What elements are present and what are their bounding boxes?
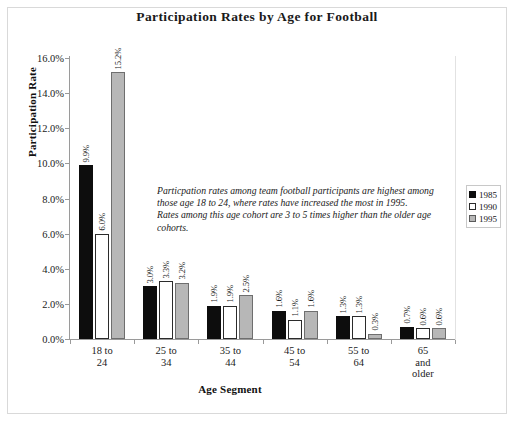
x-category-label: 55 to64 <box>327 345 391 368</box>
y-tick-mark <box>65 58 69 59</box>
legend-swatch-icon <box>469 191 476 198</box>
x-category-label: 25 to34 <box>134 345 198 368</box>
x-category-label-line: 34 <box>134 357 198 369</box>
x-axis-title: Age Segment <box>0 383 460 395</box>
bar-value-label: 0.3% <box>370 313 379 331</box>
x-category-label: 65andolder <box>391 345 455 380</box>
x-category-label-line: 24 <box>70 357 134 369</box>
bar-value-label: 2.5% <box>242 274 251 292</box>
y-tick-label: 4.0% <box>18 263 64 274</box>
annotation-line: those age 18 to 24, where rates have inc… <box>157 197 457 209</box>
annotation-line: Particpation rates among team football p… <box>157 185 457 197</box>
bar-1995-1[interactable] <box>175 283 189 339</box>
x-tick-mark <box>455 340 456 344</box>
x-category-label: 18 to24 <box>70 345 134 368</box>
x-category-label-line: 35 to <box>198 345 262 357</box>
bar-value-label: 6.0% <box>98 213 107 231</box>
chart-title: Participation Rates by Age for Football <box>0 9 514 25</box>
y-tick-mark <box>65 163 69 164</box>
bar-value-label: 1.3% <box>354 295 363 313</box>
bar-value-label: 1.3% <box>338 295 347 313</box>
bar-1985-3[interactable] <box>272 311 286 339</box>
bar-value-label: 1.6% <box>306 290 315 308</box>
y-tick-label: 12.0% <box>18 123 64 134</box>
legend-item-1990[interactable]: 1990 <box>469 201 497 212</box>
bar-1990-0[interactable] <box>95 234 109 339</box>
x-category-label-line: 25 to <box>134 345 198 357</box>
bar-1990-3[interactable] <box>288 320 302 339</box>
bar-value-label: 0.6% <box>418 308 427 326</box>
y-tick-label: 14.0% <box>18 88 64 99</box>
annotation-line: cohorts. <box>157 222 457 234</box>
bar-1995-3[interactable] <box>304 311 318 339</box>
chart-container: Participation Rates by Age for Football … <box>0 0 514 421</box>
y-tick-label: 8.0% <box>18 193 64 204</box>
bar-value-label: 3.2% <box>178 262 187 280</box>
legend-label: 1995 <box>479 214 497 224</box>
bar-1990-2[interactable] <box>223 306 237 339</box>
bar-value-label: 0.6% <box>434 308 443 326</box>
legend-item-1995[interactable]: 1995 <box>469 213 497 224</box>
y-tick-label: 10.0% <box>18 158 64 169</box>
x-category-label-line: older <box>391 368 455 380</box>
y-tick-mark <box>65 339 69 340</box>
y-tick-mark <box>65 234 69 235</box>
legend-item-1985[interactable]: 1985 <box>469 189 497 200</box>
bar-value-label: 1.1% <box>290 299 299 317</box>
x-category-label-line: 54 <box>263 357 327 369</box>
x-tick-mark <box>391 340 392 344</box>
y-tick-mark <box>65 93 69 94</box>
y-tick-label: 6.0% <box>18 228 64 239</box>
bar-1985-1[interactable] <box>143 286 157 339</box>
legend-label: 1985 <box>479 190 497 200</box>
x-tick-mark <box>134 340 135 344</box>
bar-1985-2[interactable] <box>207 306 221 339</box>
bar-1985-5[interactable] <box>400 327 414 339</box>
bar-value-label: 15.2% <box>114 47 123 69</box>
bar-1990-5[interactable] <box>416 328 430 339</box>
x-tick-mark <box>327 340 328 344</box>
x-category-label-line: 55 to <box>327 345 391 357</box>
chart-annotation-text: Particpation rates among team football p… <box>157 185 457 237</box>
annotation-line: Rates among this age cohort are 3 to 5 t… <box>157 209 457 221</box>
y-tick-label: 0.0% <box>18 334 64 345</box>
legend-swatch-icon <box>469 215 476 222</box>
bar-1995-4[interactable] <box>368 334 382 339</box>
x-category-label: 35 to44 <box>198 345 262 368</box>
bar-1990-1[interactable] <box>159 281 173 339</box>
x-category-label-line: 44 <box>198 357 262 369</box>
bar-1995-5[interactable] <box>432 328 446 339</box>
x-category-label-line: and <box>391 357 455 369</box>
x-tick-mark <box>198 340 199 344</box>
y-tick-label: 16.0% <box>18 53 64 64</box>
chart-legend: 198519901995 <box>466 185 501 228</box>
bar-value-label: 3.3% <box>162 260 171 278</box>
bar-value-label: 3.0% <box>146 266 155 284</box>
bar-group: 9.9%6.0%15.2% <box>70 58 134 339</box>
x-category-label-line: 64 <box>327 357 391 369</box>
legend-label: 1990 <box>479 202 497 212</box>
y-tick-mark <box>65 269 69 270</box>
bar-1985-4[interactable] <box>336 316 350 339</box>
x-category-label-line: 18 to <box>70 345 134 357</box>
y-tick-label: 2.0% <box>18 298 64 309</box>
bar-value-label: 1.9% <box>210 285 219 303</box>
x-category-label-line: 45 to <box>263 345 327 357</box>
y-tick-mark <box>65 128 69 129</box>
bar-1995-0[interactable] <box>111 72 125 339</box>
bar-value-label: 0.7% <box>402 306 411 324</box>
bar-1995-2[interactable] <box>239 295 253 339</box>
y-tick-mark <box>65 304 69 305</box>
bar-value-label: 1.6% <box>274 290 283 308</box>
x-category-label-line: 65 <box>391 345 455 357</box>
legend-swatch-icon <box>469 203 476 210</box>
bar-1990-4[interactable] <box>352 316 366 339</box>
bar-value-label: 1.9% <box>226 285 235 303</box>
bar-1985-0[interactable] <box>79 165 93 339</box>
bar-value-label: 9.9% <box>82 144 91 162</box>
y-tick-mark <box>65 199 69 200</box>
x-category-label: 45 to54 <box>263 345 327 368</box>
x-tick-mark <box>70 340 71 344</box>
x-tick-mark <box>263 340 264 344</box>
